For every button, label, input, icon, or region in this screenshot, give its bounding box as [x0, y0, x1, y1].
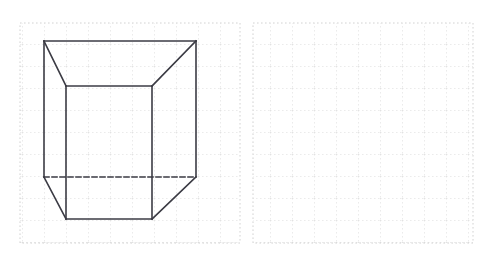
figure-edge [44, 41, 66, 86]
figure-edge [44, 177, 66, 219]
right-grid [248, 0, 496, 261]
worksheet-canvas [0, 0, 496, 261]
figure-edge [152, 177, 196, 219]
left-grid-panel [0, 0, 248, 261]
figure-edge [152, 41, 196, 86]
right-grid-panel [248, 0, 496, 261]
prism-figure [0, 0, 248, 261]
